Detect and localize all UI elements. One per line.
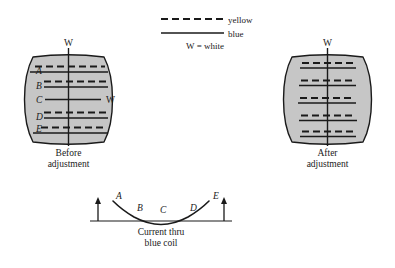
legend-group: yellow blue W = white [161,15,253,52]
curve-caption-line2: blue coil [145,238,178,248]
curve-point-b-label: B [137,203,143,213]
legend-blue-label: blue [228,29,244,39]
after-top-w-marker: W [323,38,332,48]
before-caption-line2: adjustment [48,159,90,169]
before-row-a-label: A [35,66,42,76]
curve-point-e-label: E [212,191,219,201]
after-caption-line1: After [317,148,338,158]
left-current-arrow-icon [95,197,101,221]
before-row-d-label: D [35,112,43,122]
crt-convergence-figure: yellow blue W = white W A B [0,0,395,268]
right-current-arrow-icon [221,197,227,221]
legend-white-label: W = white [186,41,224,51]
after-caption-line2: adjustment [307,159,349,169]
curve-point-a-label: A [115,191,122,201]
curve-caption-line1: Current thru [138,227,185,237]
figure-canvas: yellow blue W = white W A B [0,0,395,268]
legend-yellow-label: yellow [228,15,253,25]
before-row-c-label: C [36,95,43,105]
before-row-c-w-marker: W [106,95,115,105]
before-top-w-marker: W [64,38,73,48]
before-adjustment-panel: W A B C W D [25,38,116,169]
current-curve-panel: A B C D E Current thru blue coil [90,191,232,248]
before-row-e-label: E [35,124,42,134]
before-row-b-label: B [36,81,42,91]
after-adjustment-panel: W After adjustment [284,38,372,169]
before-caption-line1: Before [56,148,82,158]
curve-point-c-label: C [160,205,167,215]
curve-point-d-label: D [189,203,197,213]
